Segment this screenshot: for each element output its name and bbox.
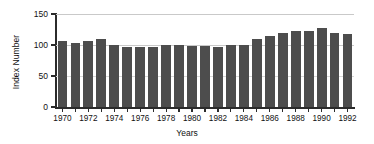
y-tick-label-150: 150 bbox=[0, 9, 48, 19]
y-tick-label-0: 0 bbox=[0, 102, 48, 112]
x-tick-1972 bbox=[88, 108, 89, 112]
bar-1984 bbox=[239, 45, 249, 107]
x-tick-1986 bbox=[269, 108, 270, 112]
bar-1983 bbox=[226, 45, 236, 107]
x-tick-1971 bbox=[75, 108, 76, 112]
x-tick-1974 bbox=[114, 108, 115, 112]
bar-1982 bbox=[213, 47, 223, 107]
x-axis-title: Years bbox=[0, 128, 374, 138]
bar-1972 bbox=[83, 41, 93, 107]
bar-1974 bbox=[109, 45, 119, 107]
x-tick-1989 bbox=[308, 108, 309, 112]
x-tick-1992 bbox=[347, 108, 348, 112]
bar-1981 bbox=[200, 46, 210, 107]
bar-chart-figure: Index Number 050100150 19701972197419761… bbox=[0, 0, 374, 144]
bar-1986 bbox=[265, 36, 275, 107]
x-tick-1982 bbox=[217, 108, 218, 112]
x-tick-1978 bbox=[166, 108, 167, 112]
bar-1989 bbox=[304, 31, 314, 107]
x-tick-1979 bbox=[178, 108, 179, 112]
x-tick-1973 bbox=[101, 108, 102, 112]
bar-1975 bbox=[122, 47, 132, 107]
plot-area bbox=[56, 14, 354, 107]
x-tick-1975 bbox=[127, 108, 128, 112]
x-tick-1970 bbox=[62, 108, 63, 112]
x-tick-1984 bbox=[243, 108, 244, 112]
x-tick-1980 bbox=[191, 108, 192, 112]
y-tick-label-100: 100 bbox=[0, 40, 48, 50]
bar-1970 bbox=[58, 41, 68, 107]
bar-1991 bbox=[330, 33, 340, 107]
gridline-150 bbox=[56, 14, 354, 15]
x-tick-1981 bbox=[204, 108, 205, 112]
bar-1992 bbox=[343, 34, 353, 107]
x-tick-1988 bbox=[295, 108, 296, 112]
bar-1987 bbox=[278, 33, 288, 107]
x-tick-1983 bbox=[230, 108, 231, 112]
x-tick-1977 bbox=[153, 108, 154, 112]
bar-1977 bbox=[148, 47, 158, 107]
bar-1988 bbox=[291, 31, 301, 107]
bar-1990 bbox=[317, 28, 327, 107]
x-tick-1985 bbox=[256, 108, 257, 112]
bar-1980 bbox=[187, 46, 197, 107]
bar-1971 bbox=[71, 43, 81, 107]
x-tick-label-1992: 1992 bbox=[333, 114, 363, 123]
bar-1979 bbox=[174, 45, 184, 107]
bar-1973 bbox=[96, 39, 106, 107]
x-tick-1976 bbox=[140, 108, 141, 112]
bar-1985 bbox=[252, 39, 262, 107]
bar-1976 bbox=[135, 47, 145, 107]
bar-1978 bbox=[161, 45, 171, 107]
x-tick-1991 bbox=[334, 108, 335, 112]
x-tick-1990 bbox=[321, 108, 322, 112]
x-tick-1987 bbox=[282, 108, 283, 112]
y-tick-label-50: 50 bbox=[0, 71, 48, 81]
y-axis-title: Index Number bbox=[9, 22, 23, 102]
